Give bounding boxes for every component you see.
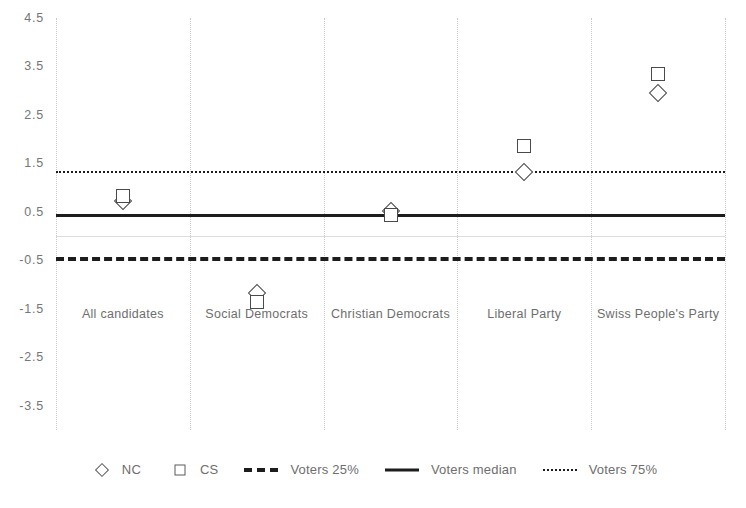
y-axis-tick-label: 0.5 (24, 205, 44, 219)
reference-line-voters-25 (56, 257, 725, 261)
vertical-gridline (457, 18, 458, 430)
y-axis-tick-label: 3.5 (24, 59, 44, 73)
legend-item[interactable]: Voters 25% (244, 462, 359, 477)
data-point-cs (517, 139, 531, 153)
vertical-gridline (591, 18, 592, 430)
y-axis-tick-label: -3.5 (19, 399, 44, 413)
vertical-gridline (324, 18, 325, 430)
vertical-gridline (56, 18, 57, 430)
legend-label: NC (122, 462, 141, 477)
y-axis-tick-label: -2.5 (19, 350, 44, 364)
legend-label: Voters 75% (589, 462, 658, 477)
x-axis-category-label: Liberal Party (461, 304, 587, 324)
data-point-cs (651, 67, 665, 81)
x-axis-category-label: Swiss People's Party (595, 304, 721, 324)
zero-gridline (56, 236, 725, 237)
legend-label: Voters median (431, 462, 517, 477)
y-axis-tick-label: -0.5 (19, 253, 44, 267)
solid-line-icon (385, 463, 423, 477)
chart-legend: NCCSVoters 25%Voters medianVoters 75% (0, 462, 746, 477)
y-axis-tick-label: -1.5 (19, 302, 44, 316)
plot-area (56, 18, 725, 430)
y-axis: 4.53.52.51.50.5-0.5-1.5-2.5-3.5 (0, 0, 50, 508)
chart-container: 4.53.52.51.50.5-0.5-1.5-2.5-3.5 All cand… (0, 0, 746, 508)
vertical-gridline (190, 18, 191, 430)
reference-line-voters-75 (56, 171, 725, 173)
data-point-cs (384, 208, 398, 222)
legend-item[interactable]: NC (89, 462, 141, 477)
data-point-nc (515, 163, 533, 181)
y-axis-tick-label: 4.5 (24, 11, 44, 25)
x-axis-category-label: All candidates (60, 304, 186, 324)
legend-label: CS (200, 462, 218, 477)
square-marker-icon (167, 463, 193, 477)
data-point-cs (116, 189, 130, 203)
y-axis-tick-label: 1.5 (24, 156, 44, 170)
dotted-line-icon (543, 463, 581, 477)
diamond-marker-icon (89, 463, 115, 477)
x-axis-category-label: Social Democrats (194, 304, 320, 324)
vertical-gridline (725, 18, 726, 430)
legend-item[interactable]: Voters median (385, 462, 517, 477)
legend-item[interactable]: CS (167, 462, 218, 477)
data-point-nc (649, 84, 667, 102)
x-axis-category-label: Christian Democrats (328, 304, 454, 324)
y-axis-tick-label: 2.5 (24, 108, 44, 122)
legend-label: Voters 25% (290, 462, 359, 477)
dashed-line-icon (244, 463, 282, 477)
legend-item[interactable]: Voters 75% (543, 462, 658, 477)
